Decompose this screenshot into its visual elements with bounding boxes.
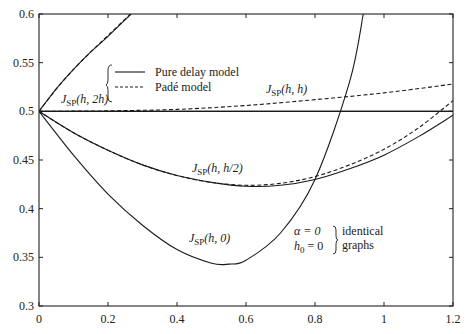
x-tick-label: 0 <box>36 312 42 326</box>
x-tick-label: 0.8 <box>308 312 323 326</box>
y-tick-label: 0.4 <box>19 202 34 216</box>
plot-frame <box>39 14 453 306</box>
legend-solid-label: Pure delay model <box>155 65 240 79</box>
y-tick-label: 0.6 <box>19 7 34 21</box>
alpha-equation: α = 0 <box>294 224 320 238</box>
x-tick-label: 0.2 <box>101 312 116 326</box>
series-lines <box>39 14 453 265</box>
identical-graphs-note: α = 0 h0 = 0 identical graphs <box>294 224 384 255</box>
graphs-label: graphs <box>342 238 374 252</box>
identical-label: identical <box>342 224 384 238</box>
legend-dashed-label: Padé model <box>155 80 212 94</box>
right-brace <box>333 226 338 254</box>
x-tick-label: 1.2 <box>446 312 461 326</box>
legend: Pure delay model Padé model <box>106 65 240 102</box>
chart: 00.20.40.60.811.20.30.350.40.450.50.550.… <box>0 0 470 334</box>
label-j-h-2h: JSP(h, 2h) <box>61 92 108 108</box>
plot-border <box>39 14 453 306</box>
label-j-h-h: JSP(h, h) <box>266 82 307 98</box>
y-tick-label: 0.3 <box>19 299 34 313</box>
series-line <box>39 111 453 186</box>
y-tick-label: 0.5 <box>19 104 34 118</box>
y-tick-label: 0.35 <box>13 250 34 264</box>
x-tick-label: 0.4 <box>170 312 185 326</box>
y-tick-label: 0.55 <box>13 56 34 70</box>
label-j-h-0: JSP(h, 0) <box>189 231 230 247</box>
x-tick-label: 0.6 <box>239 312 254 326</box>
label-j-h-h2: JSP(h, h/2) <box>192 161 243 177</box>
series-line <box>39 101 453 186</box>
h0-equation: h0 = 0 <box>294 239 323 255</box>
x-tick-label: 1 <box>381 312 387 326</box>
y-tick-label: 0.45 <box>13 153 34 167</box>
